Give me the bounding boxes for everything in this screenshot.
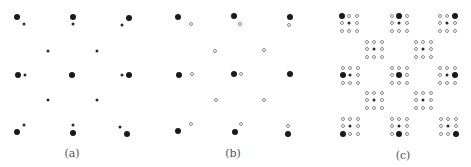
- spot-small-dot: [96, 99, 99, 102]
- figure-canvas: (a) (b) (c): [0, 0, 471, 167]
- spot-large-dot: [396, 131, 402, 137]
- spot-open-dot: [340, 29, 344, 33]
- spot-open-dot: [438, 21, 442, 25]
- spot-open-dot: [365, 91, 369, 95]
- spot-small-dot: [422, 99, 425, 102]
- spot-open-dot: [453, 21, 457, 25]
- spot-open-dot: [429, 55, 433, 59]
- spot-open-dot: [380, 106, 384, 110]
- spot-small-dot: [373, 99, 376, 102]
- spot-large-dot: [232, 129, 238, 135]
- spot-open-dot: [380, 98, 384, 102]
- spot-open-dot: [429, 91, 433, 95]
- spot-open-dot: [214, 98, 218, 102]
- spot-open-dot: [262, 48, 266, 52]
- spot-small-dot: [446, 22, 449, 25]
- spot-small-dot: [23, 124, 26, 127]
- spot-open-dot: [365, 47, 369, 51]
- spot-large-dot: [453, 131, 459, 137]
- spot-open-dot: [390, 21, 394, 25]
- spot-open-dot: [190, 72, 194, 76]
- spot-open-dot: [372, 91, 376, 95]
- spot-open-dot: [438, 29, 442, 33]
- spot-open-dot: [355, 14, 359, 18]
- spot-open-dot: [405, 81, 409, 85]
- spot-open-dot: [414, 91, 418, 95]
- spot-open-dot: [454, 124, 458, 128]
- spot-open-dot: [341, 81, 345, 85]
- spot-large-dot: [124, 131, 130, 137]
- spot-small-dot: [23, 23, 26, 26]
- spot-open-dot: [414, 55, 418, 59]
- spot-open-dot: [213, 49, 217, 53]
- spot-open-dot: [421, 55, 425, 59]
- spot-open-dot: [414, 106, 418, 110]
- spot-open-dot: [439, 124, 443, 128]
- spot-open-dot: [287, 23, 291, 27]
- spot-open-dot: [356, 117, 360, 121]
- spot-small-dot: [119, 126, 122, 129]
- spot-small-dot: [348, 22, 351, 25]
- spot-small-dot: [349, 125, 352, 128]
- spot-open-dot: [421, 106, 425, 110]
- spot-large-dot: [396, 72, 402, 78]
- spot-open-dot: [397, 117, 401, 121]
- spot-open-dot: [421, 91, 425, 95]
- spot-open-dot: [414, 47, 418, 51]
- spot-small-dot: [121, 74, 124, 77]
- spot-large-dot: [339, 13, 345, 19]
- spot-open-dot: [390, 29, 394, 33]
- spot-open-dot: [445, 14, 449, 18]
- spot-small-dot: [72, 124, 75, 127]
- spot-small-dot: [24, 74, 27, 77]
- spot-small-dot: [349, 74, 352, 77]
- spot-open-dot: [397, 66, 401, 70]
- spot-open-dot: [445, 81, 449, 85]
- spot-open-dot: [405, 14, 409, 18]
- spot-open-dot: [341, 66, 345, 70]
- spot-open-dot: [372, 106, 376, 110]
- spot-open-dot: [347, 14, 351, 18]
- spot-open-dot: [390, 14, 394, 18]
- spot-open-dot: [414, 98, 418, 102]
- spot-open-dot: [238, 22, 242, 26]
- spot-large-dot: [452, 13, 458, 19]
- spot-open-dot: [262, 98, 266, 102]
- spot-open-dot: [356, 124, 360, 128]
- spot-open-dot: [397, 29, 401, 33]
- spot-open-dot: [438, 66, 442, 70]
- spot-large-dot: [14, 129, 20, 135]
- spot-open-dot: [286, 124, 290, 128]
- spot-small-dot: [72, 23, 75, 26]
- spot-open-dot: [405, 73, 409, 77]
- spot-large-dot: [231, 71, 237, 77]
- spot-open-dot: [365, 98, 369, 102]
- spot-open-dot: [348, 81, 352, 85]
- spot-open-dot: [405, 21, 409, 25]
- spot-open-dot: [405, 132, 409, 136]
- spot-large-dot: [70, 14, 76, 20]
- spot-large-dot: [126, 72, 132, 78]
- spot-large-dot: [126, 15, 132, 21]
- spot-open-dot: [372, 40, 376, 44]
- spot-open-dot: [390, 81, 394, 85]
- spot-open-dot: [365, 40, 369, 44]
- spot-open-dot: [380, 55, 384, 59]
- spot-open-dot: [356, 73, 360, 77]
- spot-open-dot: [390, 124, 394, 128]
- spot-large-dot: [396, 13, 402, 19]
- spot-open-dot: [445, 29, 449, 33]
- spot-open-dot: [429, 106, 433, 110]
- spot-open-dot: [405, 124, 409, 128]
- spot-open-dot: [365, 106, 369, 110]
- spot-large-dot: [14, 14, 20, 20]
- spot-open-dot: [347, 29, 351, 33]
- spot-open-dot: [438, 81, 442, 85]
- spot-large-dot: [452, 72, 458, 78]
- spot-open-dot: [421, 40, 425, 44]
- panel-b-caption: (b): [225, 147, 241, 160]
- spot-open-dot: [397, 81, 401, 85]
- spot-open-dot: [340, 21, 344, 25]
- spot-small-dot: [47, 50, 50, 53]
- spot-open-dot: [356, 66, 360, 70]
